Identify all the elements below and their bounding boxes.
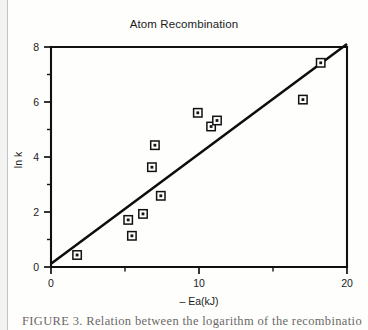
x-tick-label-20: 20: [341, 277, 353, 289]
data-point: [148, 163, 156, 171]
data-point: [317, 59, 325, 67]
data-point: [194, 109, 202, 117]
scanned-page: Atom Recombination: [0, 0, 368, 330]
data-point: [151, 141, 159, 149]
data-point: [128, 232, 136, 240]
best-fit-line: [51, 44, 347, 264]
y-tick-label-4: 4: [33, 151, 39, 163]
data-point: [213, 116, 221, 124]
x-tick-label-10: 10: [193, 277, 205, 289]
y-tick-label-0: 0: [33, 261, 39, 273]
x-axis-title: – Ea(kJ): [179, 295, 218, 307]
figure-caption: FIGURE 3. Relation between the logarithm…: [22, 314, 362, 330]
data-point: [73, 251, 81, 259]
y-tick-label-8: 8: [33, 41, 39, 53]
data-point: [139, 210, 147, 218]
x-tick-label-0: 0: [48, 277, 54, 289]
data-point: [157, 192, 165, 200]
data-point: [299, 95, 307, 103]
y-tick-label-6: 6: [33, 96, 39, 108]
scatter-plot: 0 2 4 6 8 0 10 20 ln k – Ea(kJ): [0, 0, 368, 330]
y-tick-label-2: 2: [33, 206, 39, 218]
figure-atom-recombination: Atom Recombination: [0, 0, 368, 330]
y-axis-title: ln k: [12, 151, 24, 168]
data-point: [124, 216, 132, 224]
